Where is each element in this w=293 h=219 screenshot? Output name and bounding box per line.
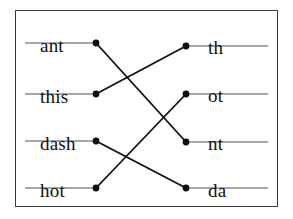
edge-this-th bbox=[96, 46, 186, 94]
node-dot-ot[interactable] bbox=[183, 91, 190, 98]
edge-ant-nt bbox=[96, 43, 186, 142]
edge-hot-ot bbox=[96, 94, 186, 188]
left-rule-group bbox=[25, 43, 96, 188]
node-label-ot: ot bbox=[208, 86, 223, 105]
node-label-this: this bbox=[40, 87, 68, 106]
node-dot-th[interactable] bbox=[183, 43, 190, 50]
edge-group bbox=[96, 43, 186, 188]
node-dot-this[interactable] bbox=[93, 91, 100, 98]
node-label-dash: dash bbox=[40, 134, 76, 153]
edge-dash-da bbox=[96, 141, 186, 188]
matching-diagram-figure: antthisdashhot thotntda bbox=[0, 0, 293, 219]
node-label-hot: hot bbox=[40, 181, 65, 200]
dot-group bbox=[93, 40, 190, 192]
node-label-nt: nt bbox=[208, 134, 223, 153]
node-dot-hot[interactable] bbox=[93, 185, 100, 192]
node-label-da: da bbox=[208, 181, 226, 200]
node-dot-nt[interactable] bbox=[183, 139, 190, 146]
right-rule-group bbox=[186, 46, 268, 188]
node-dot-dash[interactable] bbox=[93, 138, 100, 145]
node-dot-da[interactable] bbox=[183, 185, 190, 192]
node-label-th: th bbox=[208, 38, 223, 57]
node-dot-ant[interactable] bbox=[93, 40, 100, 47]
node-label-ant: ant bbox=[40, 36, 64, 55]
